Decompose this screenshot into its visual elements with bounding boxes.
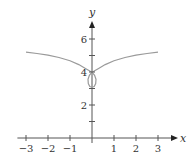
ticks: −3−2−1123246 [19,34,162,155]
y-tick-label: 2 [81,100,87,111]
axes: xy [17,6,187,145]
x-tick-label: 3 [155,143,161,154]
x-tick-label: −1 [63,143,78,154]
x-tick-label: 1 [111,143,117,154]
chart: xy −3−2−1123246 [0,0,188,167]
x-tick-label: −2 [41,143,56,154]
x-tick-label: 2 [133,143,139,154]
y-axis-label: y [88,6,96,19]
x-axis-label: x [180,132,187,145]
y-axis-arrow-icon [89,21,95,28]
y-tick-label: 4 [81,67,87,78]
y-tick-label: 6 [81,34,87,45]
x-axis-arrow-icon [171,135,178,141]
x-tick-label: −3 [19,143,34,154]
